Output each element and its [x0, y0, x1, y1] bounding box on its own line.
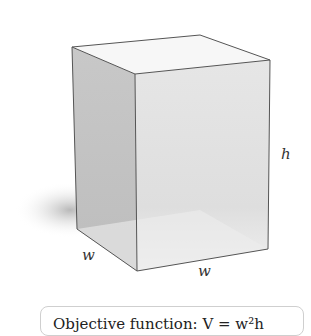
width-left-label: w	[82, 246, 95, 264]
height-label: h	[281, 145, 291, 163]
width-front-label: w	[198, 262, 211, 280]
objective-function-text: Objective function: V = w²h	[53, 315, 264, 333]
objective-function-box: Objective function: V = w²h	[40, 306, 304, 336]
